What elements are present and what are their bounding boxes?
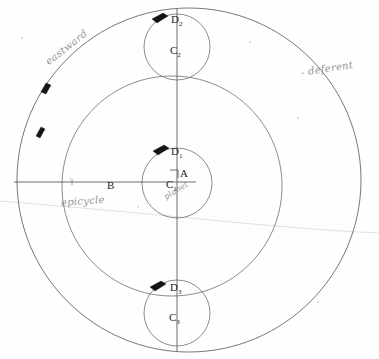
deferent-tick-upper (41, 83, 51, 94)
label-d1-letter: D (171, 145, 179, 157)
label-d3: D3 (170, 282, 181, 296)
planet-marker-d1 (153, 145, 169, 155)
planet-marker-d2 (152, 13, 168, 23)
label-d3-subscript: 3 (178, 288, 182, 296)
paper-specks (21, 37, 319, 303)
label-c2: C2 (170, 45, 181, 59)
deferent-tick-lower (36, 127, 45, 138)
label-c2-subscript: 2 (177, 51, 181, 59)
label-d3-letter: D (170, 281, 178, 293)
label-d1-subscript: 1 (179, 152, 183, 160)
deferent-circle (17, 8, 361, 352)
paper-fold-line (0, 201, 379, 233)
label-c3-subscript: 3 (176, 318, 180, 326)
planet-marker-d3 (150, 281, 166, 291)
label-d2: D2 (171, 14, 182, 28)
label-c3: C3 (169, 312, 180, 326)
label-d1: D1 (171, 146, 182, 160)
label-b: B (107, 180, 114, 191)
label-d2-subscript: 2 (179, 20, 183, 28)
diagram-canvas: D2 C2 D1 A C1 B D3 C3 eastward - deferen… (0, 0, 379, 359)
label-d2-letter: D (171, 13, 179, 25)
label-a: A (180, 168, 188, 179)
